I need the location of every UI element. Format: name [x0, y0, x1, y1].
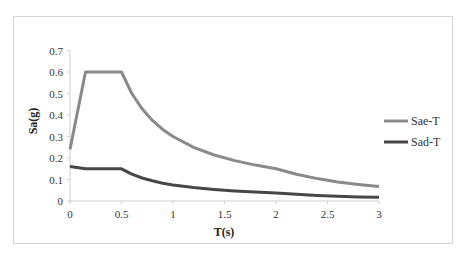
- y-tick-label: 0.1: [49, 174, 63, 186]
- legend-label: Sad-T: [411, 135, 441, 149]
- legend-label: Sae-T: [411, 114, 440, 128]
- response-spectrum-chart: 00.10.20.30.40.50.60.700.511.522.53 T(s)…: [0, 0, 467, 259]
- y-tick-label: 0.7: [49, 45, 63, 57]
- x-tick-label: 0.5: [115, 208, 129, 220]
- x-tick-label: 0: [67, 208, 73, 220]
- x-tick-label: 3: [376, 208, 382, 220]
- series-lines: [70, 72, 379, 197]
- x-tick-label: 1: [170, 208, 176, 220]
- y-tick-label: 0.2: [49, 152, 63, 164]
- x-axis-title: T(s): [214, 225, 235, 239]
- x-tick-label: 2.5: [321, 208, 335, 220]
- x-tick-label: 2: [273, 208, 279, 220]
- y-tick-label: 0.5: [49, 88, 63, 100]
- y-tick-label: 0: [58, 195, 64, 207]
- y-tick-label: 0.4: [49, 109, 63, 121]
- y-axis-title: Sa(g): [26, 108, 40, 135]
- x-tick-label: 1.5: [218, 208, 232, 220]
- legend: Sae-TSad-T: [384, 114, 441, 149]
- y-tick-label: 0.3: [49, 131, 63, 143]
- y-tick-label: 0.6: [49, 66, 63, 78]
